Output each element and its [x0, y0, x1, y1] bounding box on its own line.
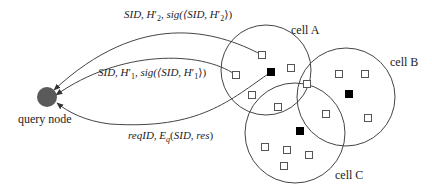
query-node[interactable]	[37, 87, 57, 107]
sensor-node[interactable]	[262, 144, 269, 151]
sensor-node[interactable]	[281, 163, 288, 170]
sensor-node[interactable]	[275, 104, 282, 111]
sensor-node[interactable]	[288, 65, 295, 72]
sensor-node[interactable]	[233, 72, 240, 79]
leader-node-c[interactable]	[296, 127, 304, 135]
sensor-node[interactable]	[249, 92, 256, 99]
sensor-node[interactable]	[306, 152, 313, 159]
leader-node-a[interactable]	[267, 68, 275, 76]
sensor-node[interactable]	[323, 111, 330, 118]
query-node-label: query node	[18, 112, 72, 126]
arrow-msg-h2	[54, 33, 262, 90]
leader-node-b[interactable]	[345, 90, 353, 98]
diagram-canvas: query node cell A cell B cell C SID, H′2…	[0, 0, 432, 194]
msg-req-label: reqID, Eq(SID, res)	[128, 129, 213, 144]
cell-a-label: cell A	[291, 23, 320, 37]
sensor-node[interactable]	[304, 81, 311, 88]
arrow-msg-req	[57, 72, 271, 125]
sensor-node[interactable]	[362, 71, 369, 78]
cell-c-circle	[245, 83, 345, 183]
sensor-node[interactable]	[259, 52, 266, 59]
sensor-node[interactable]	[365, 115, 372, 122]
msg-h1-label: SID, H′1, sig(⟨SID, H′1⟩)	[98, 66, 207, 81]
sensor-node[interactable]	[336, 71, 343, 78]
cell-b-label: cell B	[390, 55, 418, 69]
msg-h2-label: SID, H′2, sig(⟨SID, H′2⟩)	[124, 8, 233, 23]
sensor-nodes	[233, 52, 372, 170]
cell-c-label: cell C	[335, 168, 363, 182]
sensor-node[interactable]	[284, 147, 291, 154]
